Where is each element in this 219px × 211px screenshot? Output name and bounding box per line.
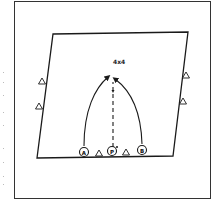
run-path-a <box>84 77 108 146</box>
cone-icon <box>36 103 43 109</box>
svg-text:P: P <box>110 149 114 155</box>
cone-icon <box>123 149 130 155</box>
cone-icon <box>39 78 46 84</box>
player-b: B <box>138 146 147 155</box>
player-p: P <box>108 146 119 156</box>
margin-marks <box>3 72 4 185</box>
drill-diagram: 4x4 A P B <box>0 0 219 211</box>
pass-arrow-icon <box>112 90 115 93</box>
svg-text:A: A <box>82 150 87 156</box>
drill-label: 4x4 <box>113 58 125 65</box>
ball-icon <box>116 146 118 148</box>
svg-text:B: B <box>140 148 144 154</box>
player-a: A <box>80 148 89 157</box>
cone-icon <box>96 150 103 156</box>
run-path-b <box>115 79 142 144</box>
